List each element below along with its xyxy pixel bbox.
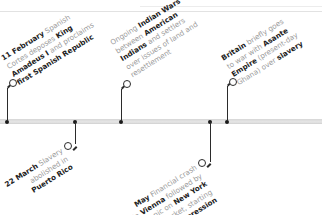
event-marker-ring xyxy=(198,159,206,167)
connector-hook xyxy=(206,163,211,168)
connector-stem xyxy=(227,86,229,121)
connector-hook xyxy=(72,146,77,151)
timeline-bar xyxy=(0,119,322,124)
connector-stem xyxy=(7,88,9,121)
connector-stem xyxy=(210,122,212,162)
event-marker-ring xyxy=(123,80,131,88)
event-marker-ring xyxy=(64,142,72,150)
connector-stem xyxy=(121,89,123,121)
event-label: 11 February SpanishCortes deposes KingAm… xyxy=(0,4,101,87)
event-label: May Financial crashin Vienna followed by… xyxy=(118,163,220,215)
connector-stem xyxy=(75,122,77,144)
event-label: 22 March Slaveryabolished inPuerto Rico xyxy=(4,146,76,206)
event-label: Britain briefly goesto war with AsanteEm… xyxy=(220,14,305,87)
